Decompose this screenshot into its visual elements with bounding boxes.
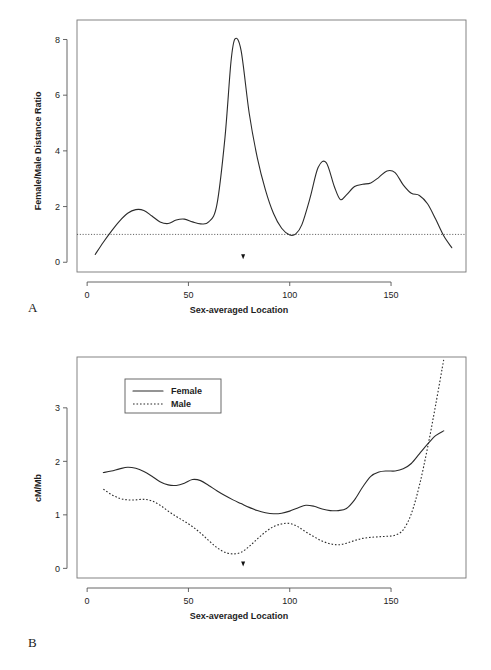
y-axis-title: cM/Mb (33, 474, 43, 503)
panel-b-plot: 0123cM/Mb050100150Sex-averaged LocationF… (0, 335, 491, 670)
panel-a-label: A (28, 300, 37, 316)
x-tick-label: 0 (85, 290, 90, 300)
panel-a: A 02468Female/Male Distance Ratio0501001… (0, 0, 491, 335)
panel-b-label: B (28, 635, 37, 651)
x-axis-title: Sex-averaged Location (190, 305, 289, 315)
x-tick-label: 50 (183, 596, 193, 606)
x-axis-title: Sex-averaged Location (190, 611, 289, 621)
y-tick-label: 0 (55, 257, 60, 267)
y-axis-title: Female/Male Distance Ratio (33, 91, 43, 210)
y-tick-label: 8 (55, 35, 60, 45)
centromere-marker-icon (241, 562, 245, 567)
x-tick-label: 150 (384, 290, 399, 300)
legend-label-female: Female (171, 386, 202, 396)
series-group (95, 38, 452, 254)
x-tick-label: 100 (282, 290, 297, 300)
y-tick-label: 3 (55, 403, 60, 413)
centromere-marker-icon (241, 254, 245, 259)
series-line-female (103, 431, 443, 514)
panel-a-plot: 02468Female/Male Distance Ratio050100150… (0, 0, 491, 335)
x-tick-label: 100 (282, 596, 297, 606)
legend-label-male: Male (171, 399, 191, 409)
y-tick-label: 0 (55, 564, 60, 574)
panel-b: B 0123cM/Mb050100150Sex-averaged Locatio… (0, 335, 491, 670)
y-tick-label: 2 (55, 202, 60, 212)
x-tick-label: 0 (85, 596, 90, 606)
series-line-female-male-distance-ratio (95, 38, 452, 254)
y-tick-label: 6 (55, 90, 60, 100)
x-tick-label: 150 (384, 596, 399, 606)
y-tick-label: 4 (55, 146, 60, 156)
figure-container: A 02468Female/Male Distance Ratio0501001… (0, 0, 491, 670)
y-tick-label: 2 (55, 457, 60, 467)
x-tick-label: 50 (183, 290, 193, 300)
y-tick-label: 1 (55, 510, 60, 520)
